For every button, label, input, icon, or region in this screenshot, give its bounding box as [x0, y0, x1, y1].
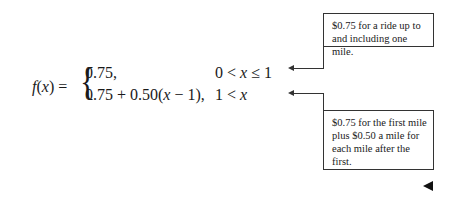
- connector-line-2-vertical: [323, 93, 324, 111]
- connector-line-1: [293, 68, 323, 69]
- connector-line-2: [293, 93, 323, 94]
- case-2-condition: 1 < x: [215, 86, 247, 104]
- connector-line-1-vertical: [323, 46, 324, 69]
- case-1-expression: 0.75,: [85, 64, 117, 82]
- case-1-condition: 0 < x ≤ 1: [215, 64, 272, 82]
- annotation-box-1: $0.75 for a ride up to and including one…: [323, 13, 434, 47]
- annotation-box-2: $0.75 for the first mile plus $0.50 a mi…: [323, 110, 434, 170]
- case-2-expression: 0.75 + 0.50(x − 1),: [85, 86, 205, 104]
- function-label: f(x) =: [32, 78, 67, 96]
- left-triangle-icon[interactable]: [423, 181, 433, 191]
